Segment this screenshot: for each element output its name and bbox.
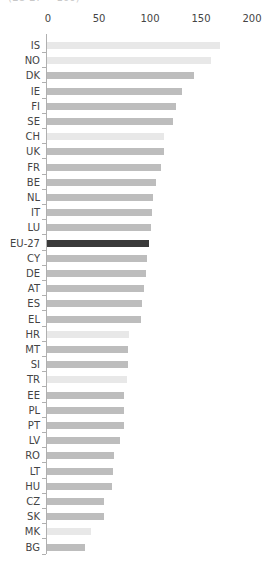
- bar-row: FI: [0, 99, 270, 114]
- bar-row: IT: [0, 205, 270, 220]
- bar-row: SE: [0, 114, 270, 129]
- bar-row: BG: [0, 540, 270, 555]
- bar-row: LV: [0, 433, 270, 448]
- x-tick-label: 150: [191, 13, 210, 24]
- category-label: RO: [25, 448, 40, 463]
- bar-row: MK: [0, 524, 270, 539]
- category-label: BG: [26, 540, 40, 555]
- category-label: HR: [26, 327, 40, 342]
- bar: [47, 209, 152, 216]
- bar-highlight: [47, 240, 149, 247]
- bar: [47, 513, 104, 520]
- category-label: SK: [27, 509, 40, 524]
- category-label: TR: [27, 372, 40, 387]
- bar: [47, 331, 129, 338]
- category-label: EE: [27, 388, 40, 403]
- bar-row: IE: [0, 84, 270, 99]
- category-label: UK: [26, 144, 40, 159]
- bar-row: ES: [0, 296, 270, 311]
- bar-row: MT: [0, 342, 270, 357]
- bar: [47, 468, 113, 475]
- bar-row: SI: [0, 357, 270, 372]
- bar: [47, 194, 153, 201]
- bar: [47, 224, 151, 231]
- category-label: SI: [31, 357, 40, 372]
- category-label: PT: [28, 418, 40, 433]
- bar-row: CY: [0, 251, 270, 266]
- bar-row: HU: [0, 479, 270, 494]
- bar: [47, 346, 128, 353]
- category-label: SE: [27, 114, 40, 129]
- bar: [47, 42, 220, 49]
- bar: [47, 88, 182, 95]
- bar: [47, 72, 194, 79]
- x-tick-label: 0: [45, 13, 51, 24]
- category-label: EL: [28, 312, 40, 327]
- bar: [47, 483, 112, 490]
- category-label: FI: [31, 99, 40, 114]
- bar-row: EE: [0, 388, 270, 403]
- category-label: NO: [25, 53, 40, 68]
- bar: [47, 300, 142, 307]
- category-label: CY: [27, 251, 40, 266]
- bar: [47, 148, 164, 155]
- bar: [47, 316, 141, 323]
- bar-row: IS: [0, 38, 270, 53]
- category-label: LV: [29, 433, 40, 448]
- category-label: DK: [26, 68, 40, 83]
- y-tick-mark: [42, 554, 46, 555]
- bar-row: DK: [0, 68, 270, 83]
- category-label: LT: [30, 464, 40, 479]
- bar-row: PL: [0, 403, 270, 418]
- bar: [47, 437, 120, 444]
- category-label: MK: [25, 524, 40, 539]
- bar-row: SK: [0, 509, 270, 524]
- x-tick-label: 100: [140, 13, 159, 24]
- bar: [47, 528, 91, 535]
- category-label: DE: [26, 266, 40, 281]
- category-label: LU: [28, 220, 40, 235]
- bar-row: BE: [0, 175, 270, 190]
- bar-row: NO: [0, 53, 270, 68]
- bar-row: CH: [0, 129, 270, 144]
- bar-row: FR: [0, 160, 270, 175]
- bar: [47, 133, 164, 140]
- category-label: MT: [25, 342, 40, 357]
- bar-row: AT: [0, 281, 270, 296]
- category-label: HU: [25, 479, 40, 494]
- bar-row: EL: [0, 312, 270, 327]
- category-label: PL: [28, 403, 40, 418]
- category-label: IT: [31, 205, 40, 220]
- bar: [47, 376, 127, 383]
- bar-row: PT: [0, 418, 270, 433]
- category-label: IS: [31, 38, 40, 53]
- bar: [47, 164, 161, 171]
- bar: [47, 255, 147, 262]
- bar-row: LU: [0, 220, 270, 235]
- category-label: FR: [27, 160, 40, 175]
- bar: [47, 392, 124, 399]
- bar-row: LT: [0, 464, 270, 479]
- bar: [47, 285, 144, 292]
- bar: [47, 422, 124, 429]
- category-label: NL: [27, 190, 40, 205]
- bar: [47, 270, 146, 277]
- bar: [47, 118, 173, 125]
- bar-row: HR: [0, 327, 270, 342]
- bar: [47, 498, 104, 505]
- category-label: BE: [27, 175, 40, 190]
- category-label: EU-27: [10, 236, 40, 251]
- category-label: IE: [31, 84, 40, 99]
- bar-row: DE: [0, 266, 270, 281]
- bar-row: EU-27: [0, 236, 270, 251]
- bar: [47, 452, 114, 459]
- bar: [47, 179, 156, 186]
- bar: [47, 407, 124, 414]
- bar: [47, 103, 176, 110]
- bar-row: UK: [0, 144, 270, 159]
- category-label: CZ: [26, 494, 40, 509]
- category-label: AT: [28, 281, 40, 296]
- category-label: ES: [27, 296, 40, 311]
- bar-row: CZ: [0, 494, 270, 509]
- bar: [47, 361, 128, 368]
